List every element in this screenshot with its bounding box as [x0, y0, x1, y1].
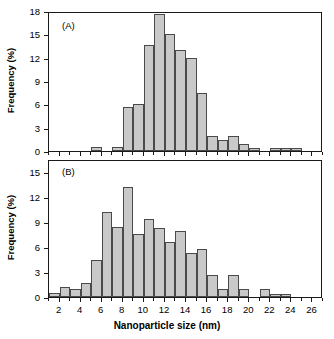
x-axis-major-tick [269, 152, 270, 156]
histogram-bar [207, 136, 218, 151]
x-axis-major-tick [122, 298, 123, 302]
histogram-bar [175, 50, 186, 151]
y-axis-tick-label: 6 [14, 242, 40, 253]
histogram-bar [197, 93, 208, 151]
histogram-bar [218, 289, 229, 297]
x-axis-major-tick [143, 152, 144, 156]
x-axis-minor-tick [280, 152, 281, 155]
x-axis-minor-tick [322, 152, 323, 155]
y-axis-tick [44, 59, 48, 60]
y-axis-tick-label: 15 [14, 29, 40, 40]
x-axis-minor-tick [217, 298, 218, 301]
x-axis-minor-tick [48, 298, 49, 301]
x-axis-major-tick [80, 152, 81, 156]
x-axis-minor-tick [111, 298, 112, 301]
histogram-bar [270, 148, 281, 151]
histogram-bar [133, 234, 144, 297]
x-axis-major-tick [311, 298, 312, 302]
histogram-bar [291, 148, 302, 151]
x-axis-minor-tick [280, 298, 281, 301]
histogram-bar [281, 294, 292, 297]
x-axis-minor-tick [322, 298, 323, 301]
x-axis-minor-tick [48, 152, 49, 155]
y-axis-tick [44, 248, 48, 249]
x-axis-minor-tick [153, 152, 154, 155]
x-axis-minor-tick [132, 298, 133, 301]
y-axis-tick-label: 9 [14, 217, 40, 228]
histogram-bar [112, 147, 123, 151]
y-axis-tick [44, 198, 48, 199]
x-axis-major-tick [206, 298, 207, 302]
histogram-bar [197, 249, 208, 298]
histogram-bar [154, 228, 165, 297]
y-axis-tick [44, 273, 48, 274]
histogram-bar [123, 187, 134, 297]
x-axis-minor-tick [153, 298, 154, 301]
panel-a-label: (A) [62, 20, 75, 31]
y-axis-tick [44, 82, 48, 83]
y-axis-tick [44, 105, 48, 106]
y-axis-tick-label: 3 [14, 267, 40, 278]
x-axis-minor-tick [301, 298, 302, 301]
panel-b-bars [49, 161, 321, 297]
x-axis-minor-tick [90, 298, 91, 301]
histogram-bar [70, 289, 81, 297]
x-axis-minor-tick [196, 298, 197, 301]
histogram-bar [186, 58, 197, 151]
histogram-bar [228, 275, 239, 297]
x-axis-title: Nanoparticle size (nm) [0, 320, 334, 331]
histogram-bar [154, 14, 165, 151]
y-axis-tick-label: 0 [14, 292, 40, 303]
x-axis-minor-tick [259, 152, 260, 155]
histogram-bar [239, 144, 250, 151]
x-axis-major-tick [122, 152, 123, 156]
x-axis-major-tick [290, 298, 291, 302]
histogram-bar [249, 148, 260, 151]
x-axis-major-tick [227, 298, 228, 302]
histogram-bar [165, 34, 176, 151]
y-axis-tick-label: 18 [14, 6, 40, 17]
x-axis-minor-tick [196, 152, 197, 155]
x-axis-major-tick [101, 152, 102, 156]
histogram-bar [144, 219, 155, 297]
histogram-bar [186, 253, 197, 297]
x-axis-major-tick [248, 152, 249, 156]
histogram-bar [102, 212, 113, 297]
y-axis-tick-label: 12 [14, 53, 40, 64]
histogram-bar [207, 275, 218, 297]
histogram-bar [270, 294, 281, 297]
panel-a-bars [49, 13, 321, 151]
x-axis-major-tick [80, 298, 81, 302]
histogram-bar [91, 147, 102, 151]
histogram-bar [60, 287, 71, 297]
y-axis-tick [44, 35, 48, 36]
x-axis-major-tick [101, 298, 102, 302]
x-axis-major-tick [185, 152, 186, 156]
x-axis-major-tick [269, 298, 270, 302]
histogram-bar [165, 242, 176, 297]
histogram-bar [228, 136, 239, 151]
x-axis-major-tick [164, 298, 165, 302]
histogram-bar [112, 227, 123, 297]
histogram-bar [175, 231, 186, 297]
histogram-bar [133, 104, 144, 151]
histogram-bar [123, 107, 134, 151]
x-axis-minor-tick [132, 152, 133, 155]
histogram-bar [81, 283, 92, 297]
x-axis-major-tick [206, 152, 207, 156]
x-axis-minor-tick [259, 298, 260, 301]
x-axis-major-tick [59, 298, 60, 302]
histogram-bar [239, 289, 250, 297]
x-axis-minor-tick [301, 152, 302, 155]
y-axis-tick [44, 12, 48, 13]
y-axis-tick-label: 15 [14, 167, 40, 178]
figure-root: Frequency (%) (A) Frequency (%) (B) Nano… [0, 0, 334, 339]
panel-b-label: (B) [62, 166, 75, 177]
x-axis-major-tick [227, 152, 228, 156]
x-axis-minor-tick [238, 152, 239, 155]
x-axis-major-tick [164, 152, 165, 156]
histogram-bar [49, 293, 60, 297]
x-axis-minor-tick [69, 152, 70, 155]
y-axis-tick [44, 129, 48, 130]
x-axis-tick-label: 26 [299, 304, 323, 315]
